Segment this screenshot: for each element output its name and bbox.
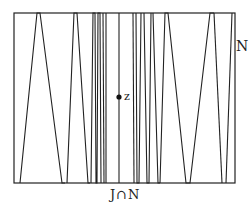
point-z-label: z	[124, 90, 130, 103]
set-n-label: N	[236, 38, 248, 54]
intersection-label: J∩N	[110, 187, 140, 202]
diagram-canvas	[0, 0, 251, 210]
point-z-dot	[116, 94, 121, 99]
